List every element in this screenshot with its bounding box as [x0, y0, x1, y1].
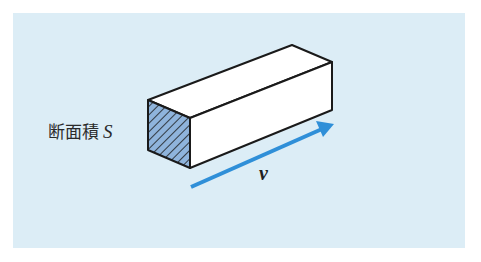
velocity-label: v — [259, 162, 268, 185]
cross-section-text: 断面積 — [48, 122, 99, 142]
cross-section-label: 断面積S — [48, 118, 113, 143]
rectangular-bar — [148, 45, 332, 168]
cross-section-symbol: S — [103, 121, 113, 142]
